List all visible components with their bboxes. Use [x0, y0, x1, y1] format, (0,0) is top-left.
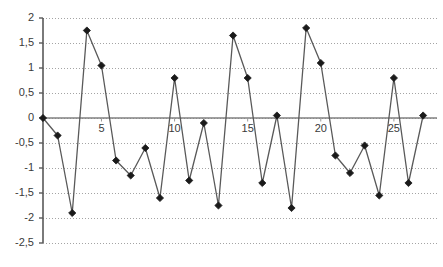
- y-axis-tick-label: -1,5: [0, 187, 34, 198]
- data-point-marker: [303, 24, 310, 31]
- y-axis-tick-label: 2: [0, 12, 34, 23]
- data-point-marker: [317, 59, 324, 66]
- data-markers: [39, 24, 426, 216]
- data-point-marker: [288, 204, 295, 211]
- y-axis-tick-label: 1: [0, 62, 34, 73]
- data-point-marker: [69, 209, 76, 216]
- x-axis-tick-label: 5: [81, 123, 121, 134]
- y-axis-tick-label: -2: [0, 212, 34, 223]
- data-point-marker: [156, 194, 163, 201]
- data-point-marker: [405, 179, 412, 186]
- x-axis-tick-label: 15: [228, 123, 268, 134]
- data-point-marker: [83, 27, 90, 34]
- y-axis-tick-label: 1,5: [0, 37, 34, 48]
- data-point-marker: [390, 74, 397, 81]
- x-axis-tick-label: 10: [155, 123, 195, 134]
- data-point-marker: [200, 119, 207, 126]
- y-axis-tick-label: -0,5: [0, 137, 34, 148]
- data-point-marker: [171, 74, 178, 81]
- y-axis-tick-label: 0,5: [0, 87, 34, 98]
- data-line: [43, 28, 423, 213]
- data-point-marker: [259, 179, 266, 186]
- data-point-marker: [229, 32, 236, 39]
- x-axis-tick-label: 20: [301, 123, 341, 134]
- line-chart: 21,510,50-0,5-1-1,5-2-2,5 510152025: [0, 0, 443, 267]
- y-axis-tick-label: -2,5: [0, 237, 34, 248]
- x-axis-tick-label: 25: [374, 123, 414, 134]
- data-point-marker: [244, 74, 251, 81]
- y-axis-tick-label: 0: [0, 112, 34, 123]
- data-point-marker: [186, 177, 193, 184]
- data-point-marker: [142, 144, 149, 151]
- data-point-marker: [215, 202, 222, 209]
- y-axis-tick-label: -1: [0, 162, 34, 173]
